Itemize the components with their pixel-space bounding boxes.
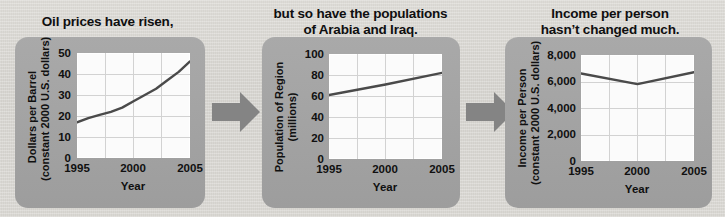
panel-oil-prices: Oil prices have risen, Dollars per Barre…: [0, 0, 215, 217]
xtick-1995: 1995: [316, 163, 342, 175]
plot-area-oil-prices: [77, 53, 190, 158]
xtick-2000: 2000: [624, 165, 650, 177]
xtick-2005: 2005: [429, 163, 455, 175]
ytick-40: 40: [43, 68, 71, 80]
ytick-50: 50: [43, 47, 71, 59]
ytick-4000: 4,000: [526, 102, 576, 114]
ytick-60: 60: [292, 90, 324, 102]
panel-income: Income per person hasn’t changed much. I…: [495, 0, 725, 217]
xtick-2000: 2000: [372, 163, 398, 175]
xtick-2000: 2000: [120, 162, 146, 174]
panel-title-oil-prices: Oil prices have risen,: [0, 14, 215, 30]
ytick-20: 20: [43, 110, 71, 122]
series-line-population: [329, 54, 442, 159]
series-line-oil-prices: [77, 53, 190, 158]
plot-area-population: [329, 54, 442, 159]
xaxis-label-population: Year: [373, 181, 397, 193]
series-line-income: [581, 55, 694, 161]
chart-card-oil-prices: Dollars per Barrel (constant 2000 U.S. d…: [15, 37, 205, 208]
plot-area-income: [581, 55, 694, 161]
xtick-1995: 1995: [568, 165, 594, 177]
panel-title-income-line1: Income per person: [495, 6, 725, 22]
chart-card-population: Population of Region (millions) 0 20 40 …: [262, 37, 460, 208]
panel-title-income: Income per person hasn’t changed much.: [495, 6, 725, 37]
panel-title-population: but so have the populations of Arabia an…: [248, 6, 473, 37]
ytick-80: 80: [292, 69, 324, 81]
ytick-20: 20: [292, 132, 324, 144]
ytick-6000: 6,000: [526, 75, 576, 87]
panel-title-population-line2: of Arabia and Iraq.: [248, 22, 473, 38]
xtick-2005: 2005: [681, 165, 707, 177]
xaxis-label-oil-prices: Year: [121, 180, 145, 192]
panel-population: but so have the populations of Arabia an…: [248, 0, 473, 217]
ytick-40: 40: [292, 111, 324, 123]
ytick-2000: 2,000: [526, 128, 576, 140]
xtick-1995: 1995: [64, 162, 90, 174]
xaxis-label-income: Year: [625, 183, 649, 195]
panel-title-income-line2: hasn’t changed much.: [495, 22, 725, 38]
ytick-30: 30: [43, 89, 71, 101]
ytick-8000: 8,000: [526, 49, 576, 61]
chart-card-income: Income per Person (constant 2000 U.S. do…: [505, 37, 712, 208]
panel-title-population-line1: but so have the populations: [248, 6, 473, 22]
ytick-100: 100: [292, 48, 324, 60]
ytick-10: 10: [43, 131, 71, 143]
xtick-2005: 2005: [177, 162, 203, 174]
